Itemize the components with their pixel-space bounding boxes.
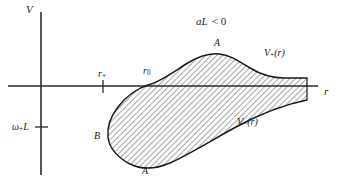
curve-v-minus-label: V−(r) xyxy=(237,117,258,128)
omega-base: ω xyxy=(12,121,19,132)
point-a-prime-label: A′ xyxy=(142,166,150,176)
shaded-region xyxy=(100,45,315,175)
condition-prefix: aL xyxy=(196,15,208,27)
r-zero-tick-label: r0 xyxy=(143,66,151,77)
omega-L-tick-label: ω+L xyxy=(12,122,29,133)
r-plus-subscript: + xyxy=(102,72,106,80)
r-plus-tick-label: r+ xyxy=(98,69,106,80)
curve-v-plus-label: V+(r) xyxy=(264,48,285,59)
r-axis-label: r xyxy=(324,86,328,97)
v-axis-label: V xyxy=(26,4,33,15)
condition-value: 0 xyxy=(221,15,227,27)
condition-relation: < xyxy=(212,15,218,27)
figure-canvas xyxy=(0,0,351,181)
condition-annotation: aL<0 xyxy=(196,16,226,27)
potential-diagram-figure: V r r+ r0 ω+L aL<0 A B A′ V+(r) V−(r) xyxy=(0,0,351,181)
r-zero-subscript: 0 xyxy=(147,69,151,77)
v-minus-arg: (r) xyxy=(247,116,258,127)
point-b-label: B xyxy=(94,131,100,141)
v-plus-arg: (r) xyxy=(274,47,285,58)
omega-tail: L xyxy=(23,121,29,132)
point-a-label: A xyxy=(214,38,220,48)
